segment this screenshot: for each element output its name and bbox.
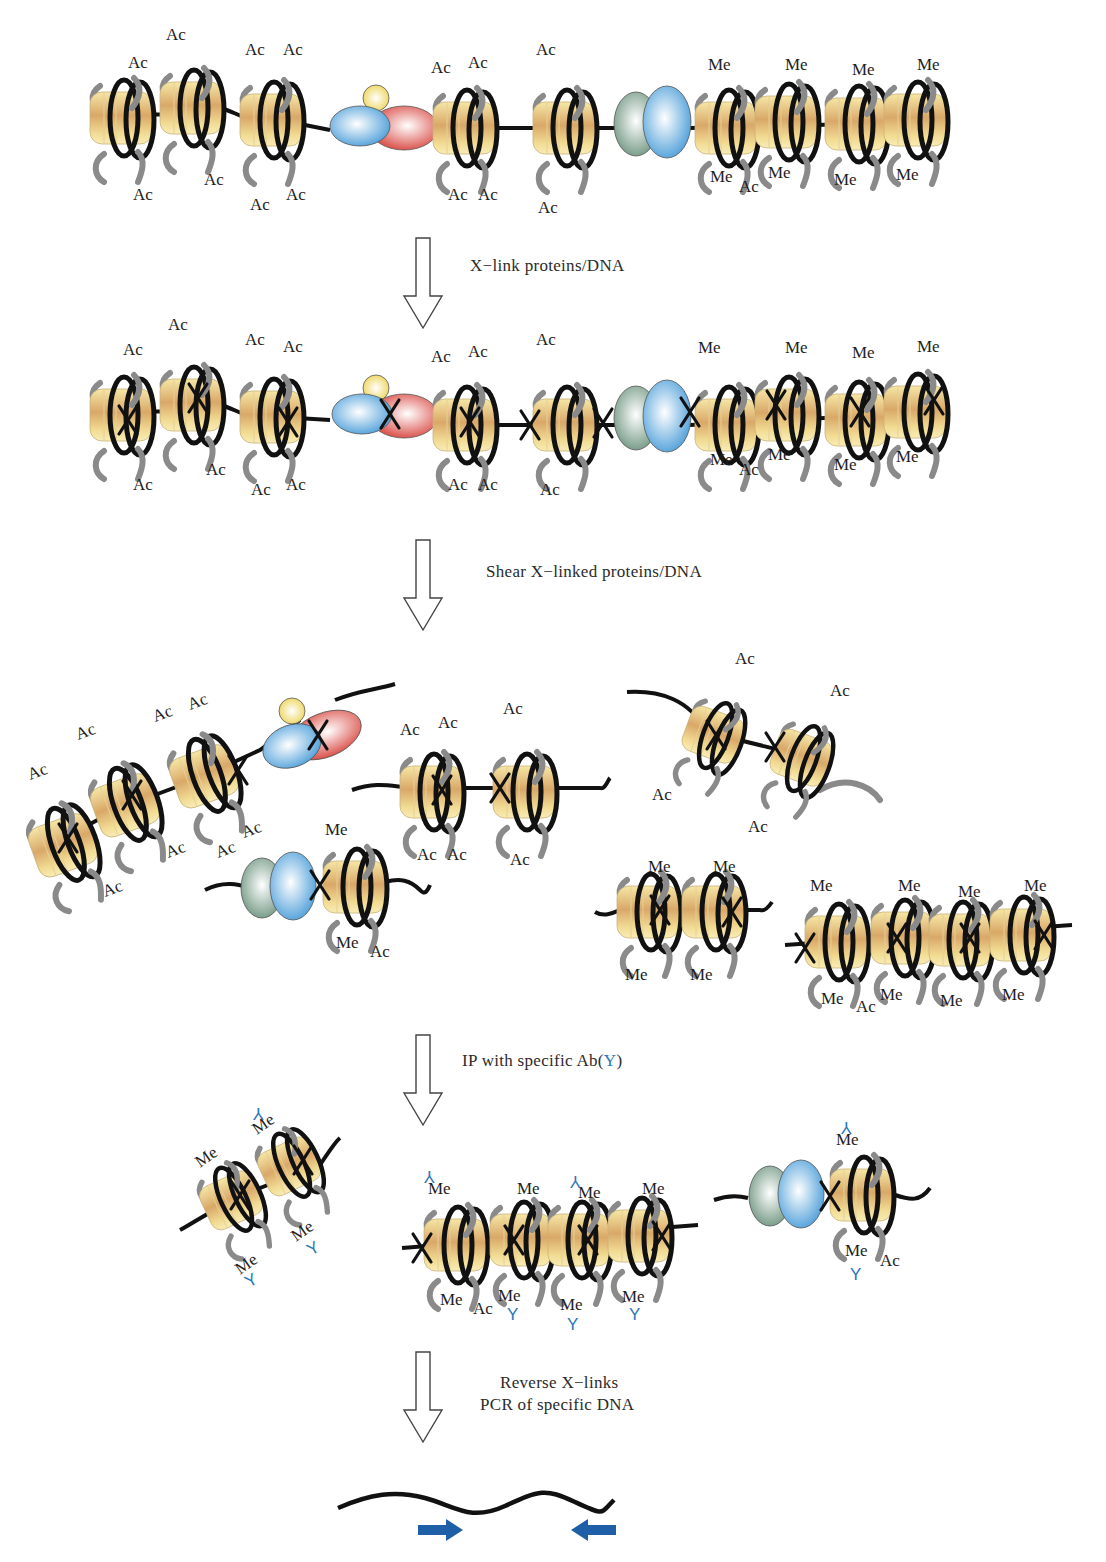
methyl-label: Me [852,60,875,79]
methyl-label: Me [191,1143,220,1172]
nucleosome [617,872,681,976]
antibody-icon: Y [253,1104,264,1123]
acetyl-label: Ac [510,850,530,869]
stage-native-chromatin: AcAcAcAcAcAcAcAcAcAcAcAcAcAcMeMeAcMeMeMe… [90,25,948,217]
acetyl-label: Ac [652,785,672,804]
duo-protein-complex [614,380,691,452]
acetyl-label: Ac [206,460,226,479]
methyl-label: Me [440,1290,463,1309]
acetyl-label: Ac [73,719,99,744]
acetyl-label: Ac [163,837,189,862]
methyl-label: Me [880,985,903,1004]
acetyl-label: Ac [830,681,850,700]
antibody-icon: Y [629,1305,640,1324]
nucleosome [533,385,597,489]
methyl-label: Me [785,338,808,357]
nucleosome [90,78,154,182]
reverse-primer-arrow-icon [571,1519,616,1541]
methyl-label: Me [810,876,833,895]
acetyl-label: Ac [166,25,186,44]
methyl-label: Me [917,337,940,356]
chip-diagram: X−link proteins/DNA Shear X−linked prote… [0,0,1106,1562]
acetyl-label: Ac [370,942,390,961]
acetyl-label: Ac [478,185,498,204]
methyl-label: Me [690,965,713,984]
tri-protein-complex [330,85,438,150]
antibody-icon: Y [841,1118,852,1137]
acetyl-label: Ac [431,58,451,77]
methyl-label: Me [642,1179,665,1198]
nucleosome [755,714,841,822]
nucleosome [160,365,224,469]
antibody-icon: Y [570,1172,581,1191]
acetyl-label: Ac [468,53,488,72]
acetyl-label: Ac [123,340,143,359]
acetyl-label: Ac [250,195,270,214]
acetyl-label: Ac [739,177,759,196]
acetyl-label: Ac [168,315,188,334]
nucleosome [682,872,746,976]
acetyl-label: Ac [286,475,306,494]
nucleosome [608,1196,672,1300]
nucleosome [82,756,178,876]
methyl-label: Me [622,1287,645,1306]
nucleosome [990,895,1054,999]
methyl-label: Me [821,989,844,1008]
methyl-label: Me [852,343,875,362]
acetyl-label: Ac [400,720,420,739]
antibody-icon: Y [424,1167,435,1186]
specific-dna-strand [338,1493,614,1513]
process-arrow-icon [404,540,442,630]
methyl-label: Me [834,455,857,474]
acetyl-label: Ac [856,997,876,1016]
methyl-label: Me [498,1286,521,1305]
methyl-label: Me [896,165,919,184]
antibody-icon: Y [507,1305,518,1324]
acetyl-label: Ac [448,475,468,494]
methyl-label: Me [708,55,731,74]
antibody-icon: Y [242,1269,261,1291]
fragment-methyl-pair [595,872,772,976]
acetyl-label: Ac [128,53,148,72]
methyl-label: Me [710,450,733,469]
methyl-label: Me [648,857,671,876]
antibody-icon: Y [850,1265,861,1284]
acetyl-label: Ac [438,713,458,732]
acetyl-label: Ac [150,701,176,726]
acetyl-label: Ac [133,475,153,494]
acetyl-label: Ac [251,480,271,499]
acetyl-label: Ac [133,185,153,204]
process-arrow-icon [404,238,442,328]
acetyl-label: Ac [748,817,768,836]
methyl-label: Me [325,820,348,839]
methyl-label: Me [785,55,808,74]
nucleosome [249,1121,341,1230]
acetyl-label: Ac [448,185,468,204]
nucleosome [493,752,557,856]
nucleosome [240,80,304,184]
nucleosome [160,68,224,172]
acetyl-label: Ac [473,1299,493,1318]
nucleosome [533,88,597,192]
methyl-label: Me [336,933,359,952]
fragment-acetyl-pair [352,752,610,856]
acetyl-label: Ac [447,845,467,864]
acetyl-label: Ac [25,759,51,784]
stage-pcr [338,1493,616,1541]
diagram-canvas: AcAcAcAcAcAcAcAcAcAcAcAcAcAcMeMeAcMeMeMe… [0,0,1106,1562]
methyl-label: Me [517,1179,540,1198]
methyl-label: Me [896,447,919,466]
acetyl-label: Ac [417,845,437,864]
acetyl-label: Ac [540,480,560,499]
methyl-label: Me [845,1241,868,1260]
methyl-label: Me [940,991,963,1010]
methyl-label: Me [917,55,940,74]
stage-immunoprecipitated: MeMeMeMeMeMeMeMeMeAcMeMeMeMeMeAc YYYYYYY… [180,1104,930,1334]
process-arrow-icon [404,1352,442,1442]
antibody-icon: Y [567,1315,578,1334]
acetyl-label: Ac [213,837,239,862]
methyl-label: Me [834,170,857,189]
acetyl-label: Ac [204,170,224,189]
acetyl-label: Ac [503,699,523,718]
process-arrow-icon [404,1035,442,1125]
